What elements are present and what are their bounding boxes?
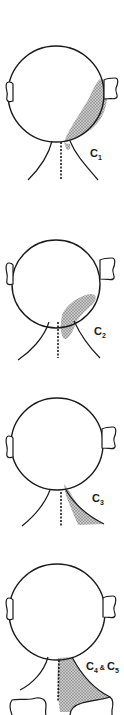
shaded-region-c3 [64, 484, 104, 525]
label-c4-c5: C4&C5 [86, 660, 119, 674]
head-outline [8, 46, 104, 142]
left-ear-icon [6, 598, 13, 620]
right-ear-icon [102, 427, 116, 449]
shaded-region-c2 [61, 294, 96, 339]
left-ear-icon [6, 263, 13, 285]
neck-left-line [18, 322, 49, 360]
head-outline [12, 240, 100, 328]
head-outline [9, 564, 105, 660]
neck-left-line [20, 657, 48, 690]
panel-c4-c5: C4&C5 [6, 564, 119, 715]
panel-c1: C1 [6, 46, 118, 180]
right-ear-icon [104, 78, 118, 99]
label-c3: C3 [92, 492, 104, 506]
left-ear-icon [6, 82, 13, 102]
left-ear-icon [6, 436, 13, 458]
panel-c2: C2 [6, 240, 115, 360]
right-ear-icon [103, 596, 116, 618]
label-c2: C2 [94, 325, 106, 339]
neck-left-line [28, 141, 52, 180]
label-c1: C1 [90, 147, 102, 161]
right-ear-icon [100, 258, 115, 280]
head-outline [11, 398, 103, 490]
neck-left-line [22, 490, 50, 526]
left-shoulder-outline [10, 698, 46, 715]
dermatome-diagram: C1 C2 C3 C4&C5 [0, 0, 124, 715]
panel-c3: C3 [6, 398, 116, 526]
